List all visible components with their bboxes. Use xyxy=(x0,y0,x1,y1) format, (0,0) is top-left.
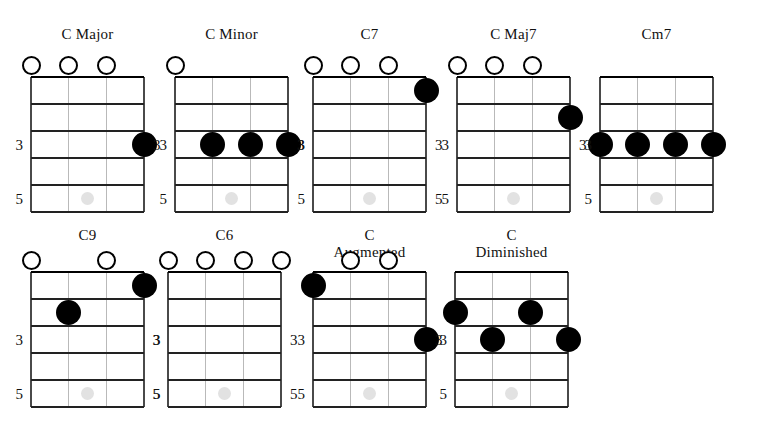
string-line-4 xyxy=(569,77,571,212)
string-line-1 xyxy=(456,77,458,212)
finger-dot-s1-f2 xyxy=(443,300,468,325)
fret-inlay-dot xyxy=(505,387,518,400)
fret-line-1 xyxy=(168,298,281,300)
fret-number-left-5: 5 xyxy=(287,192,305,207)
chord-diagram-c-major: C Major353 xyxy=(31,26,144,218)
chord-diagram-c-augmented: CAugmented353 xyxy=(313,227,426,413)
fret-line-2 xyxy=(31,130,144,132)
fret-number-left-5: 5 xyxy=(431,192,449,207)
fretboard-grid xyxy=(313,77,426,212)
chord-title-line: C xyxy=(476,227,548,244)
open-string-circle-s3 xyxy=(97,56,116,75)
nut-line xyxy=(455,271,568,273)
fret-number-left-3: 3 xyxy=(574,138,592,153)
nut-line xyxy=(168,271,281,273)
chord-diagram-c-minor: C Minor353 xyxy=(175,26,288,218)
open-string-circle-s3 xyxy=(379,56,398,75)
fret-number-left-5: 5 xyxy=(149,192,167,207)
string-line-1 xyxy=(30,77,32,212)
fret-inlay-dot xyxy=(507,192,520,205)
fret-line-3 xyxy=(313,157,426,159)
fret-line-3 xyxy=(168,352,281,354)
fret-line-2 xyxy=(168,325,281,327)
finger-dot-s2-f3 xyxy=(200,132,225,157)
fret-number-left-5: 5 xyxy=(429,387,447,402)
nut-line xyxy=(313,76,426,78)
fretboard-grid xyxy=(455,272,568,407)
chord-diagram-c-diminished: CDiminished35 xyxy=(455,227,568,413)
open-string-circle-s3 xyxy=(234,251,253,270)
chord-title-c9: C9 xyxy=(79,227,97,244)
open-string-circle-s3 xyxy=(379,251,398,270)
fret-number-left-3: 3 xyxy=(5,333,23,348)
fret-line-3 xyxy=(600,157,713,159)
fret-inlay-dot xyxy=(363,387,376,400)
open-string-circle-s3 xyxy=(523,56,542,75)
fretboard-grid xyxy=(175,77,288,212)
string-line-1 xyxy=(312,77,314,212)
open-string-circle-s1 xyxy=(22,56,41,75)
chord-chart-sheet: C Major353C Minor353C73535C Maj7353Cm735… xyxy=(0,0,761,428)
chord-title-line: C Minor xyxy=(205,26,258,43)
open-string-circle-s1 xyxy=(304,56,323,75)
fret-number-left-3: 3 xyxy=(429,333,447,348)
fret-inlay-dot xyxy=(81,387,94,400)
open-string-circle-s3 xyxy=(97,251,116,270)
fret-line-2 xyxy=(457,130,570,132)
fret-line-5 xyxy=(457,211,570,213)
fret-line-3 xyxy=(313,352,426,354)
fret-number-left-3: 3 xyxy=(287,333,305,348)
string-line-2 xyxy=(350,272,351,407)
fret-line-1 xyxy=(31,103,144,105)
fret-number-left-5: 5 xyxy=(5,387,23,402)
fret-line-5 xyxy=(31,406,144,408)
fret-line-3 xyxy=(175,157,288,159)
fret-line-1 xyxy=(455,298,568,300)
nut-line xyxy=(457,76,570,78)
chord-title-line: Diminished xyxy=(476,244,548,261)
open-string-circle-s4 xyxy=(272,251,291,270)
string-line-1 xyxy=(454,272,456,407)
chord-diagram-cm7: Cm735 xyxy=(600,26,713,218)
nut-line xyxy=(600,76,713,78)
nut-line xyxy=(31,76,144,78)
open-string-circle-s2 xyxy=(341,251,360,270)
open-string-circle-s1 xyxy=(159,251,178,270)
string-line-2 xyxy=(68,272,69,407)
chord-title-c-diminished: CDiminished xyxy=(476,227,548,261)
fret-line-2 xyxy=(313,130,426,132)
fret-line-3 xyxy=(31,352,144,354)
string-line-3 xyxy=(388,77,389,212)
chord-diagram-c-maj7: C Maj7353 xyxy=(457,26,570,218)
string-line-4 xyxy=(280,272,282,407)
string-line-3 xyxy=(388,272,389,407)
chord-title-c-maj7: C Maj7 xyxy=(490,26,537,43)
fret-inlay-dot xyxy=(225,192,238,205)
finger-dot-s3-f3 xyxy=(663,132,688,157)
chord-diagram-c6: C63535 xyxy=(168,227,281,413)
fret-inlay-dot xyxy=(81,192,94,205)
fret-line-4 xyxy=(313,184,426,186)
fretboard-grid xyxy=(31,77,144,212)
fret-line-1 xyxy=(600,103,713,105)
string-line-1 xyxy=(174,77,176,212)
finger-dot-s4-f2 xyxy=(558,105,583,130)
fret-line-3 xyxy=(31,157,144,159)
fret-number-left-5: 5 xyxy=(287,387,305,402)
string-line-3 xyxy=(530,272,531,407)
fret-line-5 xyxy=(455,406,568,408)
chord-title-cm7: Cm7 xyxy=(642,26,672,43)
fret-line-5 xyxy=(313,211,426,213)
chord-title-c7: C7 xyxy=(361,26,379,43)
fret-line-4 xyxy=(455,379,568,381)
open-string-circle-s2 xyxy=(485,56,504,75)
fretboard-grid xyxy=(31,272,144,407)
fret-number-left-3: 3 xyxy=(142,333,160,348)
chord-title-c-major: C Major xyxy=(62,26,114,43)
chord-title-line: Cm7 xyxy=(642,26,672,43)
fret-line-2 xyxy=(600,130,713,132)
fret-line-4 xyxy=(600,184,713,186)
fret-line-2 xyxy=(31,325,144,327)
fret-inlay-dot xyxy=(650,192,663,205)
string-line-2 xyxy=(205,272,206,407)
